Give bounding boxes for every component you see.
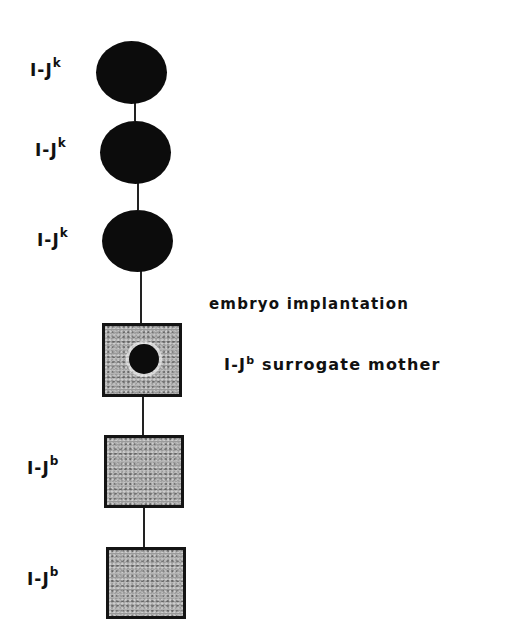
label-superscript: k [60,226,69,240]
embryo-implantation-label: embryo implantation [209,295,409,313]
label-superscript: k [53,56,62,70]
node-label-1: I-Jk [30,58,62,80]
node-label-2: I-Jk [35,138,67,160]
pedigree-square-node-6 [106,547,186,619]
label-rest: surrogate mother [255,355,440,374]
label-superscript: b [246,354,255,367]
connector-line [134,103,136,121]
implanted-embryo-circle [129,344,159,374]
connector-line [143,508,145,547]
pedigree-circle-node-1 [96,41,167,104]
surrogate-mother-square [102,323,182,397]
connector-line [137,183,139,210]
label-base: I-J [30,60,53,80]
label-base: I-J [37,230,60,250]
label-base: I-J [27,569,50,589]
label-superscript: b [50,565,60,579]
label-base: I-J [224,355,246,374]
connector-line [142,397,144,435]
node-label-6: I-Jb [27,567,59,589]
label-superscript: b [50,454,60,468]
label-base: I-J [35,140,58,160]
node-label-5: I-Jb [27,456,59,478]
label-superscript: k [58,136,67,150]
pedigree-square-node-5 [104,435,184,508]
label-base: I-J [27,458,50,478]
pedigree-circle-node-3 [102,210,173,272]
surrogate-mother-label: I-Jb surrogate mother [224,354,441,374]
node-label-3: I-Jk [37,228,69,250]
connector-line [140,271,142,323]
pedigree-circle-node-2 [100,121,171,184]
